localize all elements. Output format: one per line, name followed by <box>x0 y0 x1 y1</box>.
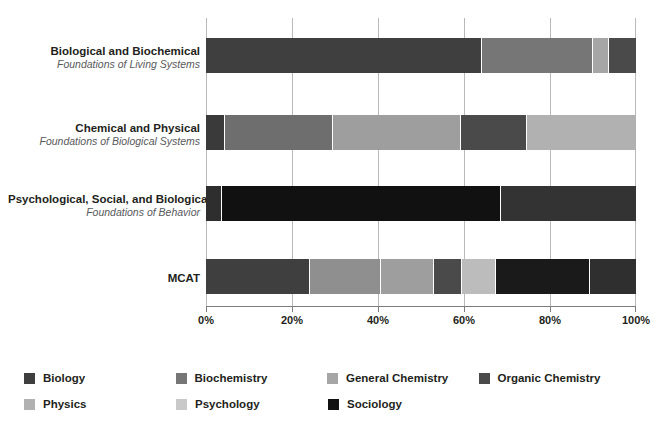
x-axis-line <box>206 306 636 307</box>
legend-item-physics[interactable]: Physics <box>24 398 176 410</box>
plot-area <box>206 18 636 306</box>
bar-segment-biology <box>206 186 222 221</box>
legend-item-organic-chemistry[interactable]: Organic Chemistry <box>479 372 631 384</box>
legend-swatch-icon <box>24 399 35 410</box>
chart-legend: BiologyBiochemistryGeneral ChemistryOrga… <box>24 365 630 417</box>
stacked-bar <box>206 259 636 294</box>
bar-segment-biology <box>225 115 333 150</box>
category-label-biological: Biological and Biochemical Foundations o… <box>8 44 200 71</box>
bar-segment-physics <box>462 259 496 294</box>
x-axis-tick-label: 100% <box>622 314 650 326</box>
x-axis-tick-label: 40% <box>367 314 389 326</box>
bar-segment-sociology <box>222 186 501 221</box>
legend-label: General Chemistry <box>346 372 448 384</box>
category-label-line1: Psychological, Social, and Biological <box>8 192 200 206</box>
category-label-line2: Foundations of Behavior <box>8 206 200 219</box>
stacked-bar <box>206 186 636 221</box>
bar-segment-psychology <box>501 186 636 221</box>
x-axis-tick <box>550 306 551 312</box>
legend-item-psychology[interactable]: Psychology <box>176 398 328 410</box>
bar-segment-organic-chemistry <box>609 38 636 73</box>
legend-label: Organic Chemistry <box>498 372 601 384</box>
x-axis-tick <box>292 306 293 312</box>
bar-segment-organic-chemistry <box>461 115 527 150</box>
bar-segment-organic-chemistry <box>434 259 462 294</box>
bar-segment-biology <box>206 259 310 294</box>
legend-item-sociology[interactable]: Sociology <box>328 398 480 410</box>
bar-segment-biochemistry <box>206 115 225 150</box>
legend-label: Biochemistry <box>195 372 268 384</box>
x-axis-tick <box>378 306 379 312</box>
stacked-bar <box>206 38 636 73</box>
category-label-line1: Biological and Biochemical <box>8 44 200 58</box>
legend-swatch-icon <box>176 373 187 384</box>
legend-item-biochemistry[interactable]: Biochemistry <box>176 372 328 384</box>
x-axis-tick-label: 20% <box>281 314 303 326</box>
legend-label: Sociology <box>347 398 402 410</box>
x-axis-tick <box>635 306 636 312</box>
legend-label: Psychology <box>195 398 260 410</box>
x-axis-tick <box>464 306 465 312</box>
bar-row-chemical <box>206 115 636 150</box>
x-axis-tick-label: 80% <box>539 314 561 326</box>
bar-row-mcat <box>206 259 636 294</box>
legend-item-biology[interactable]: Biology <box>24 372 176 384</box>
category-label-line1: MCAT <box>8 271 200 285</box>
legend-row: BiologyBiochemistryGeneral ChemistryOrga… <box>24 365 630 391</box>
category-label-psychological: Psychological, Social, and Biological Fo… <box>8 192 200 219</box>
category-label-line2: Foundations of Living Systems <box>8 58 200 71</box>
x-axis-tick-label: 60% <box>453 314 475 326</box>
category-label-chemical: Chemical and Physical Foundations of Bio… <box>8 121 200 148</box>
bar-segment-general-chemistry <box>333 115 461 150</box>
legend-swatch-icon <box>479 373 490 384</box>
bar-segment-sociology <box>590 259 636 294</box>
bar-segment-biochemistry <box>482 38 593 73</box>
stacked-bar-chart: Biological and Biochemical Foundations o… <box>0 0 654 434</box>
stacked-bar <box>206 115 636 150</box>
category-label-mcat: MCAT <box>8 271 200 285</box>
legend-row: PhysicsPsychologySociology <box>24 391 630 417</box>
bar-segment-biology <box>206 38 482 73</box>
bar-segment-general-chemistry <box>381 259 434 294</box>
category-label-line1: Chemical and Physical <box>8 121 200 135</box>
legend-swatch-icon <box>327 373 338 384</box>
bar-segment-physics <box>527 115 636 150</box>
legend-label: Biology <box>43 372 85 384</box>
legend-swatch-icon <box>328 399 339 410</box>
x-axis-tick <box>206 306 207 312</box>
legend-label: Physics <box>43 398 86 410</box>
bar-row-psychological <box>206 186 636 221</box>
legend-swatch-icon <box>176 399 187 410</box>
bar-segment-general-chemistry <box>593 38 609 73</box>
x-axis-tick-label: 0% <box>198 314 214 326</box>
bar-row-biological <box>206 38 636 73</box>
legend-item-general-chemistry[interactable]: General Chemistry <box>327 372 479 384</box>
bar-segment-psychology <box>496 259 590 294</box>
legend-swatch-icon <box>24 373 35 384</box>
bar-segment-biochemistry <box>310 259 381 294</box>
category-label-line2: Foundations of Biological Systems <box>8 135 200 148</box>
